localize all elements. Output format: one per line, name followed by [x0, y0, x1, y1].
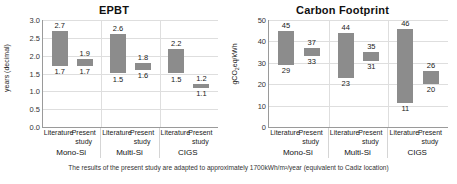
x-axis-tick-label: Present study — [182, 129, 218, 146]
plot-area-carbon-footprint: 01020304050452937334423353146112620 — [268, 20, 448, 128]
range-bar[interactable] — [304, 48, 320, 57]
bar-low-value-label: 1.5 — [171, 75, 181, 84]
chart-panel-epbt: EPBT years (decimal) 0.00.51.01.52.02.53… — [0, 0, 228, 160]
range-bar[interactable] — [193, 84, 209, 88]
group-separator — [388, 20, 389, 127]
y-axis-tick-label: 0.0 — [14, 123, 40, 132]
bar-high-value-label: 1.9 — [79, 49, 89, 58]
range-bar[interactable] — [135, 63, 151, 70]
gridline — [43, 74, 218, 75]
gridline — [269, 41, 448, 42]
gridline — [269, 20, 448, 21]
bar-high-value-label: 37 — [307, 38, 315, 47]
y-axis-tick-label: 10 — [240, 101, 266, 110]
y-axis-tick-label: 0 — [240, 123, 266, 132]
x-axis-group-label: Mono-Si — [41, 148, 101, 157]
x-axis-tick-label: Present study — [293, 129, 329, 146]
bar-high-value-label: 1.2 — [196, 74, 206, 83]
bar-low-value-label: 29 — [282, 66, 290, 75]
x-axis-carbon-footprint: LiteraturePresent studyLiteraturePresent… — [268, 129, 448, 161]
y-axis-label-epbt: years (decimal) — [3, 26, 10, 110]
y-axis-tick-label: 0.5 — [14, 105, 40, 114]
bar-high-value-label: 2.6 — [113, 24, 123, 33]
x-axis-tick-label: Present study — [412, 129, 448, 146]
group-separator — [101, 20, 102, 127]
figure-footnote: The results of the present study are ada… — [0, 164, 457, 171]
bar-low-value-label: 20 — [427, 85, 435, 94]
y-axis-tick-label: 30 — [240, 58, 266, 67]
range-bar[interactable] — [363, 52, 379, 61]
range-bar[interactable] — [168, 49, 184, 74]
bar-high-value-label: 26 — [427, 61, 435, 70]
bar-high-value-label: 46 — [401, 19, 409, 28]
bar-low-value-label: 1.1 — [196, 89, 206, 98]
y-axis-label-carbon-footprint: gCO2eq/kWh — [231, 22, 240, 106]
chart-title-epbt: EPBT — [0, 4, 228, 16]
y-axis-tick-label: 3.0 — [14, 16, 40, 25]
gridline — [269, 84, 448, 85]
gridline — [43, 91, 218, 92]
gridline — [269, 63, 448, 64]
y-axis-tick-label: 50 — [240, 16, 266, 25]
group-separator — [329, 20, 330, 127]
plot-area-epbt: 0.00.51.01.52.02.53.02.71.71.91.72.61.51… — [42, 20, 218, 128]
range-bar[interactable] — [110, 34, 126, 73]
y-axis-tick-label: 2.5 — [14, 33, 40, 42]
chart-panel-carbon-footprint: Carbon Footprint gCO2eq/kWh 010203040504… — [228, 0, 457, 160]
gridline — [43, 56, 218, 57]
footnote-text: The results of the present study are ada… — [68, 164, 388, 171]
bar-low-value-label: 1.7 — [79, 67, 89, 76]
y-axis-tick-label: 2.0 — [14, 51, 40, 60]
x-axis-group-label: CIGS — [387, 148, 447, 157]
gridline — [43, 20, 218, 21]
bar-low-value-label: 11 — [401, 104, 409, 113]
x-axis-group-label: Mono-Si — [268, 148, 328, 157]
range-bar[interactable] — [423, 71, 439, 84]
y-axis-tick-label: 20 — [240, 80, 266, 89]
y-axis-tick-label: 40 — [240, 37, 266, 46]
bar-high-value-label: 45 — [282, 21, 290, 30]
x-axis-group-label: Multi-Si — [328, 148, 388, 157]
bar-low-value-label: 23 — [341, 79, 349, 88]
bar-high-value-label: 44 — [341, 23, 349, 32]
bar-high-value-label: 1.8 — [138, 53, 148, 62]
y-axis-tick-label: 1.0 — [14, 87, 40, 96]
range-bar[interactable] — [52, 31, 68, 67]
chart-title-carbon-footprint: Carbon Footprint — [228, 4, 457, 16]
bar-high-value-label: 2.7 — [54, 21, 64, 30]
x-axis-group-label: Multi-Si — [100, 148, 160, 157]
bar-low-value-label: 33 — [307, 57, 315, 66]
gridline — [269, 106, 448, 107]
x-axis-tick-label: Present study — [124, 129, 160, 146]
x-axis-group-label: CIGS — [158, 148, 218, 157]
range-bar[interactable] — [397, 29, 413, 104]
x-axis-epbt: LiteraturePresent studyLiteraturePresent… — [42, 129, 218, 161]
gridline — [43, 109, 218, 110]
range-bar[interactable] — [338, 33, 354, 78]
bar-high-value-label: 2.2 — [171, 39, 181, 48]
bar-low-value-label: 1.7 — [54, 67, 64, 76]
bar-low-value-label: 1.5 — [113, 75, 123, 84]
x-axis-tick-label: Present study — [66, 129, 102, 146]
gridline — [43, 38, 218, 39]
x-axis-tick-label: Present study — [352, 129, 388, 146]
bar-low-value-label: 31 — [367, 62, 375, 71]
bar-high-value-label: 35 — [367, 42, 375, 51]
y-axis-tick-label: 1.5 — [14, 69, 40, 78]
figure-root: EPBT years (decimal) 0.00.51.01.52.02.53… — [0, 0, 457, 184]
range-bar[interactable] — [278, 31, 294, 65]
range-bar[interactable] — [77, 59, 93, 66]
group-separator — [160, 20, 161, 127]
bar-low-value-label: 1.6 — [138, 71, 148, 80]
